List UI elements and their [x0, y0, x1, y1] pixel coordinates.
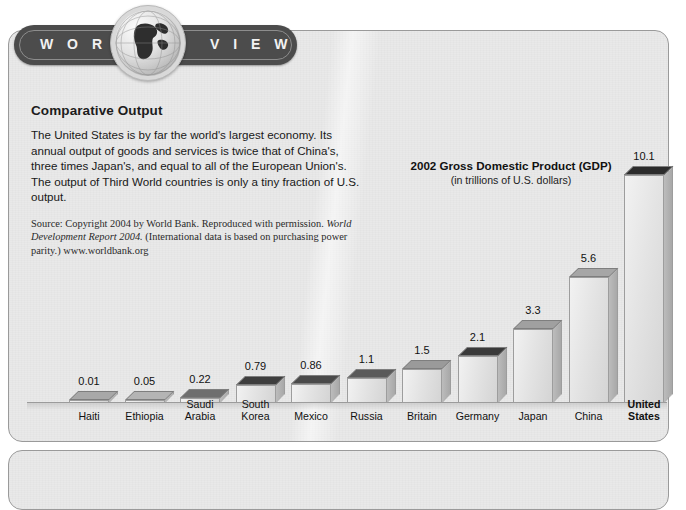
globe-sphere: [115, 10, 181, 76]
globe-icon: [110, 5, 186, 81]
bar-value-label: 0.79: [245, 360, 266, 372]
bar-japan: 3.3: [513, 329, 553, 403]
category-label-line: Haiti: [62, 410, 116, 422]
bar-value-label: 0.22: [189, 373, 210, 385]
bar-side-face: [553, 320, 562, 403]
bar-front-face: [125, 400, 165, 403]
category-label-line: China: [562, 410, 616, 422]
bar-value-label: 0.01: [78, 375, 99, 387]
category-label-line: Ethiopia: [118, 410, 172, 422]
category-label-line: Arabia: [173, 410, 227, 422]
bar-top-face: [569, 268, 618, 277]
category-label-saudi-arabia: SaudiArabia: [173, 398, 227, 422]
category-label-line: States: [617, 410, 671, 422]
bar-top-face: [236, 376, 285, 385]
bar-value-label: 5.6: [581, 252, 596, 264]
bar-ethiopia: 0.05: [125, 400, 165, 403]
category-label-china: China: [562, 410, 616, 422]
category-label-line: Germany: [451, 410, 505, 422]
bar-haiti: 0.01: [69, 400, 109, 403]
category-label-south-korea: SouthKorea: [229, 398, 283, 422]
bar-value-label: 2.1: [470, 331, 485, 343]
bar-top-face: [125, 391, 174, 400]
category-label-line: Saudi: [173, 398, 227, 410]
category-label-ethiopia: Ethiopia: [118, 410, 172, 422]
bar-value-label: 0.05: [134, 375, 155, 387]
chart-floor-shadow: [27, 403, 667, 410]
category-label-line: Britain: [395, 410, 449, 422]
bar-side-face: [609, 268, 618, 403]
bar-britain: 1.5: [402, 369, 442, 403]
category-label-germany: Germany: [451, 410, 505, 422]
next-panel: [8, 450, 669, 510]
bar-front-face: [347, 378, 387, 403]
bar-value-label: 3.3: [525, 304, 540, 316]
bar-value-label: 1.5: [414, 344, 429, 356]
bar-value-label: 0.86: [300, 359, 321, 371]
category-label-line: Russia: [340, 410, 394, 422]
category-label-japan: Japan: [506, 410, 560, 422]
bar-top-face: [458, 347, 507, 356]
world-view-panel: Comparative Output The United States is …: [8, 30, 669, 442]
category-label-line: Korea: [229, 410, 283, 422]
category-label-mexico: Mexico: [284, 410, 338, 422]
bar-value-label: 1.1: [359, 353, 374, 365]
category-label-line: Japan: [506, 410, 560, 422]
category-label-united-states: UnitedStates: [617, 398, 671, 422]
category-label-russia: Russia: [340, 410, 394, 422]
badge-word-view: V I E W: [210, 36, 292, 52]
bar-front-face: [402, 369, 442, 403]
bar-front-face: [458, 356, 498, 403]
gdp-bar-chart: 0.01Haiti0.05Ethiopia0.22SaudiArabia0.79…: [27, 101, 667, 433]
bar-united-states: 10.1: [624, 175, 664, 403]
bar-front-face: [624, 175, 664, 403]
category-label-line: United: [617, 398, 671, 410]
bar-front-face: [291, 384, 331, 403]
category-label-line: South: [229, 398, 283, 410]
bar-side-face: [664, 166, 673, 403]
bar-front-face: [69, 400, 109, 403]
bar-russia: 1.1: [347, 378, 387, 403]
bar-value-label: 10.1: [633, 150, 654, 162]
next-panel-texture: [9, 451, 668, 509]
category-label-haiti: Haiti: [62, 410, 116, 422]
bar-front-face: [513, 329, 553, 403]
bar-mexico: 0.86: [291, 384, 331, 403]
bar-germany: 2.1: [458, 356, 498, 403]
bar-top-face: [347, 369, 396, 378]
category-label-line: Mexico: [284, 410, 338, 422]
bar-china: 5.6: [569, 277, 609, 403]
globe-landmass-icon: [115, 10, 181, 76]
bar-front-face: [569, 277, 609, 403]
category-label-britain: Britain: [395, 410, 449, 422]
